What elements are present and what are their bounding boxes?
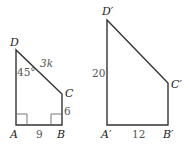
side-ab-length: 9 [36, 128, 43, 140]
vertex-label-c: C [65, 87, 74, 100]
vertex-label-b-prime: B′ [162, 128, 174, 141]
similar-quadrilaterals-diagram: D A B C 45° 3k 6 9 D′ A′ B′ C′ 20 12 [0, 0, 189, 145]
vertex-label-c-prime: C′ [171, 78, 182, 91]
side-dc-length: 3k [40, 57, 53, 69]
vertex-label-b: B [56, 128, 65, 141]
figure-abcd: D A B C 45° 3k 6 9 [9, 36, 74, 141]
right-angle-mark-a [16, 114, 27, 125]
side-cb-length: 6 [64, 105, 71, 117]
side-a-prime-b-prime-length: 12 [132, 128, 145, 140]
vertex-label-d: D [9, 36, 19, 49]
side-d-prime-a-prime-length: 20 [92, 67, 105, 79]
vertex-label-a-prime: A′ [100, 128, 112, 141]
vertex-label-d-prime: D′ [101, 5, 114, 18]
angle-d-measure: 45° [17, 66, 36, 78]
vertex-label-a: A [9, 128, 18, 141]
figure-a-prime-b-prime-c-prime-d-prime: D′ A′ B′ C′ 20 12 [92, 5, 182, 141]
quadrilateral-a-prime-b-prime-c-prime-d-prime [107, 20, 168, 125]
right-angle-mark-b [51, 114, 62, 125]
